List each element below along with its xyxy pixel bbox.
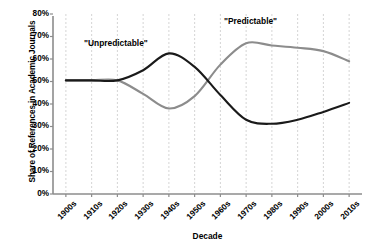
- series-annotation-predictable: "Predictable": [224, 16, 277, 26]
- x-axis-tick-labels: 1900s1910s1920s1930s1940s1950s1960s1970s…: [0, 0, 374, 251]
- chart-container: Share of References in Academic Journals…: [0, 0, 374, 251]
- series-annotation-unpredictable: "Unpredictable": [84, 38, 148, 48]
- x-tick-label-1900s: 1900s: [1, 199, 78, 251]
- x-axis-title: Decade: [53, 231, 362, 241]
